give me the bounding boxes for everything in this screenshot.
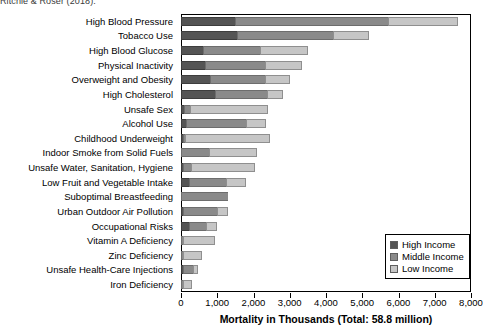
bar-segment-high <box>181 17 235 26</box>
category-label: Urban Outdoor Air Pollution <box>0 204 177 219</box>
category-label: High Blood Pressure <box>0 14 177 29</box>
bar-segment-mid <box>189 178 226 187</box>
stacked-bar[interactable] <box>181 178 246 187</box>
category-label: Childhood Underweight <box>0 131 177 146</box>
bar-segment-mid <box>203 46 260 55</box>
stacked-bar[interactable] <box>181 119 266 128</box>
stacked-bar[interactable] <box>181 31 369 40</box>
bar-row[interactable] <box>181 73 471 88</box>
bar-segment-mid <box>181 192 228 201</box>
bar-segment-low <box>191 163 254 172</box>
legend-swatch-icon <box>390 253 398 261</box>
bar-segment-high <box>181 178 189 187</box>
bar-row[interactable] <box>181 190 471 205</box>
bar-segment-low <box>185 134 270 143</box>
bar-row[interactable] <box>181 29 471 44</box>
bar-segment-mid <box>205 61 265 70</box>
bar-segment-high <box>181 90 215 99</box>
axis-tick-label: 0 <box>178 297 183 308</box>
category-label: Unsafe Sex <box>0 102 177 117</box>
axis-tick-label: 2,000 <box>242 297 266 308</box>
stacked-bar[interactable] <box>181 236 215 245</box>
bar-segment-high <box>181 31 237 40</box>
bar-segment-low <box>265 61 302 70</box>
bar-segment-mid <box>183 207 217 216</box>
stacked-bar[interactable] <box>181 90 283 99</box>
bar-segment-low <box>265 75 290 84</box>
stacked-bar[interactable] <box>181 222 217 231</box>
stacked-bar[interactable] <box>181 148 257 157</box>
axis-tick-label: 4,000 <box>314 297 338 308</box>
bar-segment-mid <box>183 163 191 172</box>
bar-row[interactable] <box>181 146 471 161</box>
category-label: Suboptimal Breastfeeding <box>0 190 177 205</box>
stacked-bar[interactable] <box>181 134 270 143</box>
category-label: Indoor Smoke from Solid Fuels <box>0 146 177 161</box>
category-label: High Cholesterol <box>0 87 177 102</box>
stacked-bar[interactable] <box>181 17 458 26</box>
bar-segment-high <box>181 46 203 55</box>
axis-tick-label: 6,000 <box>387 297 411 308</box>
chart-legend: High IncomeMiddle IncomeLow Income <box>385 234 470 279</box>
category-label: Vitamin A Deficiency <box>0 233 177 248</box>
stacked-bar-chart: High Blood PressureTobacco UseHigh Blood… <box>0 0 500 334</box>
bar-row[interactable] <box>181 116 471 131</box>
bar-row[interactable] <box>181 87 471 102</box>
bar-segment-high <box>181 61 205 70</box>
legend-item[interactable]: Middle Income <box>390 251 464 262</box>
stacked-bar[interactable] <box>181 105 268 114</box>
bar-segment-mid <box>186 119 245 128</box>
bar-segment-low <box>260 46 308 55</box>
stacked-bar[interactable] <box>181 251 202 260</box>
bar-segment-high <box>181 75 210 84</box>
bar-row[interactable] <box>181 58 471 73</box>
category-label: Alcohol Use <box>0 116 177 131</box>
bar-segment-high <box>181 222 189 231</box>
bar-segment-low <box>333 31 370 40</box>
bar-segment-low <box>206 222 216 231</box>
stacked-bar[interactable] <box>181 46 308 55</box>
bar-row[interactable] <box>181 204 471 219</box>
axis-tick-label: 8,000 <box>459 297 483 308</box>
stacked-bar[interactable] <box>181 280 192 289</box>
bar-segment-low <box>388 17 459 26</box>
bar-segment-low <box>190 105 268 114</box>
legend-label: Middle Income <box>402 251 464 262</box>
category-label: Tobacco Use <box>0 29 177 44</box>
bar-segment-low <box>246 119 266 128</box>
bar-row[interactable] <box>181 14 471 29</box>
stacked-bar[interactable] <box>181 163 255 172</box>
axis-tick-label: 5,000 <box>350 297 374 308</box>
legend-label: High Income <box>402 239 455 250</box>
stacked-bar[interactable] <box>181 265 198 274</box>
bar-row[interactable] <box>181 102 471 117</box>
bar-segment-low <box>217 207 228 216</box>
legend-item[interactable]: Low Income <box>390 263 464 274</box>
bar-segment-mid <box>189 222 207 231</box>
bar-row[interactable] <box>181 219 471 234</box>
bar-segment-low <box>267 90 283 99</box>
bar-row[interactable] <box>181 277 471 292</box>
stacked-bar[interactable] <box>181 75 290 84</box>
bar-row[interactable] <box>181 160 471 175</box>
bar-segment-low <box>183 280 192 289</box>
bar-row[interactable] <box>181 43 471 58</box>
stacked-bar[interactable] <box>181 207 228 216</box>
legend-swatch-icon <box>390 265 398 273</box>
bar-segment-mid <box>181 148 209 157</box>
stacked-bar[interactable] <box>181 192 228 201</box>
bar-row[interactable] <box>181 131 471 146</box>
legend-label: Low Income <box>402 263 453 274</box>
bar-row[interactable] <box>181 175 471 190</box>
legend-item[interactable]: High Income <box>390 239 464 250</box>
bar-segment-mid <box>210 75 265 84</box>
category-label: Unsafe Health-Care Injections <box>0 263 177 278</box>
value-axis: 01,0002,0003,0004,0005,0006,0007,0008,00… <box>181 293 471 307</box>
bar-segment-mid <box>215 90 267 99</box>
bar-segment-low <box>183 251 202 260</box>
bar-segment-low <box>226 178 246 187</box>
category-label: Overweight and Obesity <box>0 73 177 88</box>
bar-segment-mid <box>184 105 191 114</box>
stacked-bar[interactable] <box>181 61 302 70</box>
x-axis-title: Mortality in Thousands (Total: 58.8 mill… <box>181 313 471 325</box>
